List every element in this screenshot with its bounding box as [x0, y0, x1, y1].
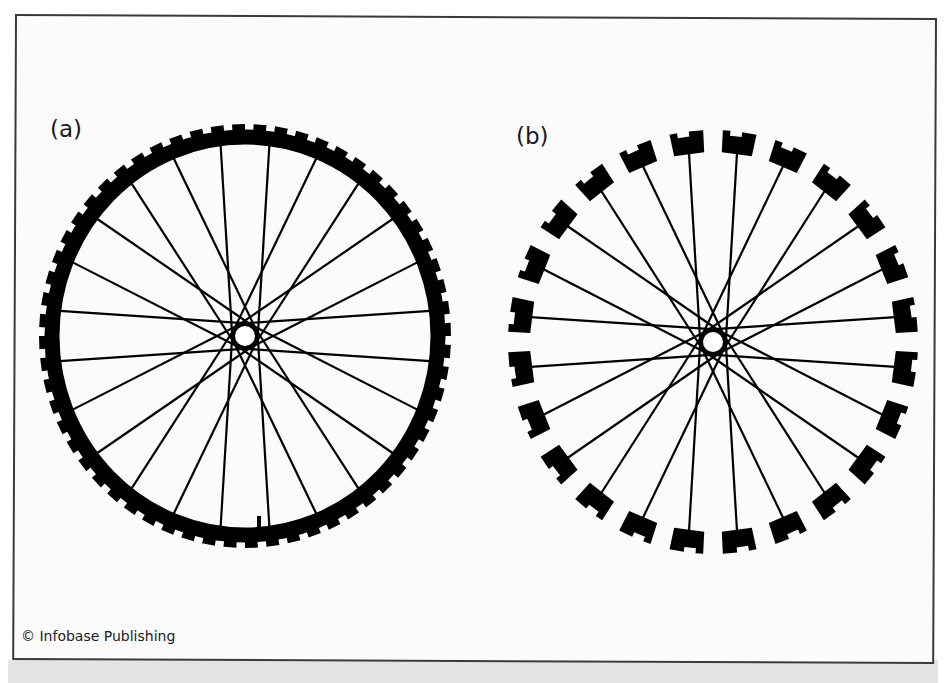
rim-segment: [876, 245, 909, 284]
valve-stem: [257, 516, 261, 529]
rim-segment: [848, 199, 885, 239]
tread-tooth: [443, 345, 451, 359]
spoke: [643, 350, 724, 519]
rim-segment: [769, 140, 807, 173]
rim-segment: [876, 400, 909, 439]
rim-segment: [541, 199, 578, 239]
hub: [701, 330, 725, 354]
rim-segment: [508, 297, 534, 333]
spoke: [173, 158, 255, 328]
wheel-diagram: [0, 0, 952, 683]
rim-segment: [812, 483, 851, 521]
rim-segment: [892, 297, 918, 333]
spoke: [721, 269, 883, 352]
hub: [233, 324, 257, 348]
spoke: [253, 326, 418, 410]
spoke: [703, 166, 784, 335]
spoke: [543, 332, 705, 415]
rim-segment: [508, 351, 534, 387]
rim-segment: [722, 130, 757, 156]
spoke: [253, 262, 418, 346]
rim-segment: [575, 164, 614, 202]
rim-segment: [575, 483, 614, 521]
tread-tooth: [444, 323, 451, 336]
spoke: [72, 262, 237, 346]
tread-tooth: [223, 540, 236, 548]
spoke: [173, 344, 255, 514]
spoke: [235, 158, 317, 328]
rim-segment: [518, 245, 551, 284]
spoke: [72, 326, 237, 410]
tread-tooth: [39, 314, 47, 328]
rim-segment: [518, 400, 551, 439]
wheel-b-segmented-rim: [508, 130, 918, 554]
spoke: [721, 332, 883, 415]
tread-tooth: [253, 124, 266, 132]
rim-segment: [722, 528, 757, 554]
rim-segment: [619, 140, 657, 173]
tread-tooth: [245, 541, 258, 548]
rim-segment: [670, 130, 705, 156]
panel-label-a: (a): [50, 118, 82, 141]
rim-segment: [812, 164, 851, 202]
spoke: [543, 269, 705, 352]
wheel-a-continuous-rim: [39, 124, 451, 548]
spoke: [703, 350, 784, 519]
rim-segment: [848, 445, 885, 485]
rim-segment: [892, 351, 918, 387]
panel-label-b: (b): [516, 125, 549, 148]
rim-segment: [619, 511, 657, 544]
tread-tooth: [39, 336, 46, 349]
spoke: [235, 344, 317, 514]
rim-segment: [769, 511, 807, 544]
tread-tooth: [232, 124, 245, 131]
copyright-credit: © Infobase Publishing: [21, 628, 175, 644]
rim-segment: [670, 528, 705, 554]
spoke: [643, 166, 724, 335]
rim-segment: [541, 445, 578, 485]
